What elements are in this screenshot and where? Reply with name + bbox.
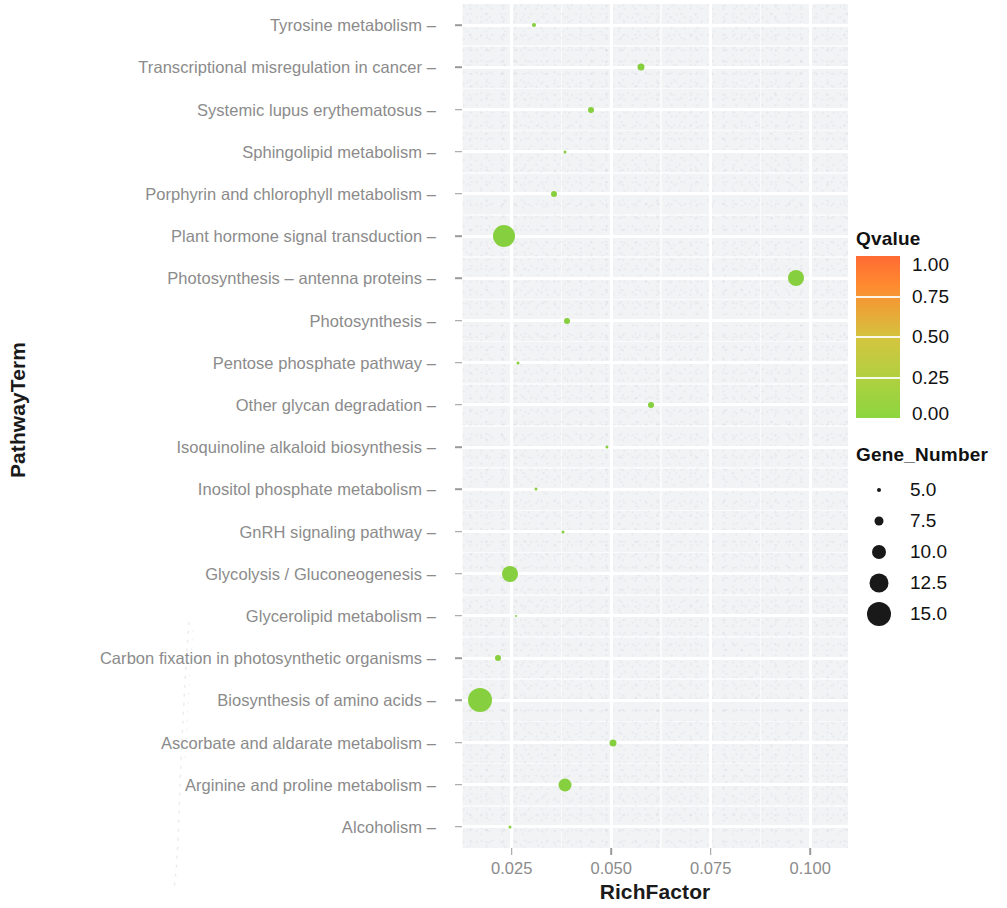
y-gridline-major (462, 361, 848, 364)
qvalue-tick-line (856, 336, 900, 338)
data-point-bubble (648, 402, 654, 408)
y-gridline-minor (462, 763, 848, 765)
legend-size-dot-cell (856, 474, 902, 505)
y-tick-mark (455, 67, 462, 69)
y-gridline-major (462, 150, 848, 153)
legend-gene-number-title: Gene_Number (856, 444, 988, 466)
y-gridline-major (462, 446, 848, 449)
data-point-bubble (516, 361, 519, 364)
y-gridline-major (462, 108, 848, 111)
legend-qvalue-body: 1.000.750.500.250.00 (856, 256, 1006, 418)
x-tick-mark (511, 848, 513, 855)
y-tick-mark (455, 109, 462, 111)
y-gridline-major (462, 699, 848, 702)
legend-size-label: 10.0 (910, 541, 947, 563)
y-tick-label: Carbon fixation in photosynthetic organi… (100, 649, 436, 668)
legend-size-label: 12.5 (910, 572, 947, 594)
y-tick-label: Glycolysis / Gluconeogenesis – (205, 564, 436, 583)
y-tick-mark (455, 193, 462, 195)
data-point-bubble (559, 778, 572, 791)
legend-size-label: 15.0 (910, 603, 947, 625)
y-tick-mark (455, 24, 462, 26)
data-point-bubble (468, 688, 492, 712)
y-tick-label: Isoquinoline alkaloid biosynthesis – (176, 438, 436, 457)
y-gridline-major (462, 235, 848, 238)
x-tick-mark (610, 848, 612, 855)
y-gridline-major (462, 657, 848, 660)
y-gridline-major (462, 192, 848, 195)
y-gridline-minor (462, 88, 848, 90)
data-point-bubble (502, 566, 518, 582)
x-tick-label: 0.025 (491, 859, 532, 878)
y-tick-mark (455, 784, 462, 786)
y-tick-mark (455, 657, 462, 659)
legend-size-row: 5.0 (856, 474, 988, 505)
y-gridline-minor (462, 467, 848, 469)
data-point-bubble (788, 270, 804, 286)
y-axis-tick-labels: Tyrosine metabolism –Transcriptional mis… (0, 0, 452, 848)
legend-size-label: 5.0 (910, 479, 936, 501)
y-gridline-major (462, 614, 848, 617)
legend-gene-number-rows: 5.07.510.012.515.0 (856, 474, 988, 629)
x-tick-mark (809, 848, 811, 855)
y-gridline-minor (462, 510, 848, 512)
data-point-bubble (564, 318, 570, 324)
y-tick-label: Transcriptional misregulation in cancer … (138, 58, 436, 77)
legend-size-row: 7.5 (856, 505, 988, 536)
y-gridline-minor (462, 805, 848, 807)
data-point-bubble (588, 107, 594, 113)
bubble-plot-figure: PathwayTerm Tyrosine metabolism –Transcr… (0, 0, 1007, 908)
y-tick-label: Porphyrin and chlorophyll metabolism – (145, 184, 436, 203)
data-point-bubble (562, 530, 565, 533)
y-tick-mark (455, 615, 462, 617)
x-tick-label: 0.075 (690, 859, 731, 878)
y-tick-mark (455, 362, 462, 364)
y-tick-label: GnRH signaling pathway – (239, 522, 436, 541)
x-tick-label: 0.050 (591, 859, 632, 878)
legend-size-dot (875, 516, 884, 525)
plot-panel (462, 4, 848, 848)
legend-size-label: 7.5 (910, 510, 936, 532)
y-gridline-minor (462, 383, 848, 385)
y-gridline-major (462, 66, 848, 69)
y-tick-mark (455, 700, 462, 702)
y-tick-label: Photosynthesis – antenna proteins – (167, 269, 436, 288)
y-tick-mark (455, 742, 462, 744)
y-tick-label: Arginine and proline metabolism – (185, 775, 436, 794)
y-gridline-minor (462, 256, 848, 258)
data-point-bubble (493, 225, 515, 247)
y-tick-mark (455, 320, 462, 322)
qvalue-tick-label: 0.75 (912, 286, 949, 308)
y-tick-label: Inositol phosphate metabolism – (198, 480, 436, 499)
legend-size-dot-cell (856, 505, 902, 536)
y-tick-label: Other glycan degradation – (236, 395, 436, 414)
qvalue-tick-label: 1.00 (912, 254, 949, 276)
x-axis-title: RichFactor (462, 880, 848, 904)
y-gridline-major (462, 741, 848, 744)
legend-size-dot-cell (856, 536, 902, 567)
legend-qvalue-title: Qvalue (856, 228, 1006, 250)
y-gridline-minor (462, 594, 848, 596)
y-gridline-minor (462, 214, 848, 216)
data-point-bubble (508, 825, 511, 828)
y-gridline-major (462, 825, 848, 828)
y-tick-label: Sphingolipid metabolism – (242, 142, 436, 161)
data-point-bubble (532, 23, 536, 27)
y-tick-mark (455, 151, 462, 153)
y-tick-mark (455, 489, 462, 491)
data-point-bubble (564, 150, 567, 153)
legend-size-dot (867, 602, 891, 626)
y-tick-mark (455, 235, 462, 237)
data-point-bubble (606, 446, 609, 449)
y-gridline-minor (462, 172, 848, 174)
data-point-bubble (515, 615, 517, 617)
qvalue-tick-line (856, 377, 900, 379)
legend-size-dot (870, 573, 889, 592)
y-tick-mark (455, 404, 462, 406)
y-tick-mark (455, 531, 462, 533)
data-point-bubble (551, 191, 557, 197)
qvalue-tick-label: 0.50 (912, 326, 949, 348)
legend-size-row: 15.0 (856, 598, 988, 629)
y-gridline-major (462, 403, 848, 406)
legend-size-row: 10.0 (856, 536, 988, 567)
